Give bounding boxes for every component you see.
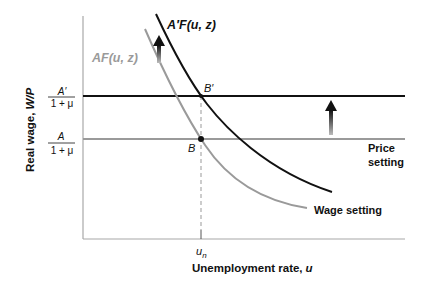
x-axis-label-main: Unemployment rate, xyxy=(192,262,303,274)
x-axis-label: Unemployment rate,u xyxy=(192,262,313,274)
curve-label-shifted: A′F(u, z) xyxy=(166,18,216,32)
wage-setting-curve-shifted xyxy=(156,14,332,192)
curve-label-original: AF(u, z) xyxy=(91,51,138,65)
label-b: B xyxy=(188,142,195,154)
ytick-low-denominator: 1 + μ xyxy=(51,145,74,156)
y-axis-label-var: W/P xyxy=(24,87,36,109)
ytick-high-numerator: A′ xyxy=(57,86,68,97)
wage-price-setting-chart: A′F(u, z) AF(u, z) B′ B Price setting Wa… xyxy=(0,0,426,283)
ytick-low-numerator: A xyxy=(57,131,65,142)
price-setting-label-2: setting xyxy=(368,156,404,168)
y-axis-label-main: Real wage, xyxy=(24,113,36,172)
xtick-un: un xyxy=(196,245,207,260)
ytick-high-denominator: 1 + μ xyxy=(51,98,74,109)
x-axis-label-var: u xyxy=(306,262,313,274)
point-b xyxy=(198,136,204,142)
wage-setting-label: Wage setting xyxy=(314,204,382,216)
y-axis-label: Real wage,W/P xyxy=(24,87,36,172)
wage-setting-curve-original xyxy=(145,29,307,208)
point-bprime xyxy=(199,94,203,98)
xtick-un-sub: n xyxy=(202,251,207,260)
price-setting-label-1: Price xyxy=(368,142,395,154)
shift-up-arrow-price-icon xyxy=(325,100,337,135)
label-bprime: B′ xyxy=(204,82,214,94)
